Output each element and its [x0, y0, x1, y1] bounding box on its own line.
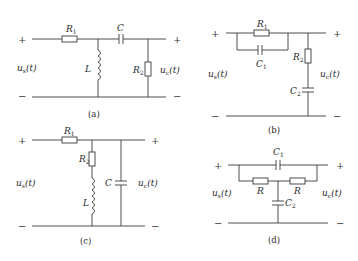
input-minus-terminal: −: [214, 218, 222, 229]
label-c1: C1: [256, 59, 267, 70]
resistor-r2: [145, 62, 151, 76]
output-voltage-label: uc(t): [322, 188, 342, 199]
caption-d: (d): [268, 235, 280, 245]
inductor-l: [98, 50, 101, 80]
input-minus-terminal: −: [211, 111, 219, 122]
input-plus-terminal: +: [214, 160, 222, 171]
resistor-r1: [254, 30, 269, 36]
label-l: L: [84, 64, 91, 74]
figure-c: + − + − R1 R2 L C us(t) uc(t) (c): [16, 126, 159, 246]
label-c2: C2: [285, 198, 296, 209]
output-plus-terminal: +: [151, 135, 159, 146]
output-minus-terminal: −: [151, 221, 159, 232]
figure-a: + − + − R1 C L R2 us(t) uc(t) (a): [17, 23, 181, 119]
label-r1: R1: [63, 126, 75, 137]
label-r2: R2: [132, 65, 144, 76]
output-voltage-label: uc(t): [320, 69, 340, 80]
label-r2: R2: [78, 154, 90, 165]
output-minus-terminal: −: [333, 111, 341, 122]
resistor-r1: [62, 36, 77, 42]
output-voltage-label: uc(t): [138, 178, 158, 189]
input-voltage-label: us(t): [17, 63, 37, 74]
label-c: C: [105, 178, 112, 188]
output-plus-terminal: +: [336, 160, 344, 171]
input-voltage-label: us(t): [208, 69, 228, 80]
resistor-r2: [89, 152, 95, 166]
label-l: L: [82, 198, 89, 208]
label-r2: R2: [292, 52, 304, 63]
resistor-r-left: [253, 178, 268, 184]
figure-d: + − + − C1 R R C2 us(t) uc(t) (d): [212, 147, 344, 245]
input-voltage-label: us(t): [16, 178, 36, 189]
input-plus-terminal: +: [18, 34, 26, 45]
label-c1: C1: [273, 147, 284, 158]
caption-a: (a): [88, 109, 100, 119]
input-minus-terminal: −: [18, 91, 26, 102]
input-voltage-label: us(t): [212, 188, 232, 199]
output-plus-terminal: +: [173, 34, 181, 45]
inductor-l: [92, 178, 95, 214]
label-r1: R1: [65, 24, 77, 35]
resistor-r2: [305, 49, 311, 63]
caption-b: (b): [268, 125, 280, 135]
label-c: C: [117, 23, 124, 33]
resistor-r-right: [290, 178, 305, 184]
input-plus-terminal: +: [18, 135, 26, 146]
output-minus-terminal: −: [173, 91, 181, 102]
figure-b: + − + − R1 C1 R2 C2 us(t) uc(t) (b): [208, 19, 341, 135]
circuit-diagrams: + − + − R1 C L R2 us(t) uc(t) (a) + −: [0, 0, 358, 261]
resistor-r1: [62, 137, 77, 143]
output-minus-terminal: −: [336, 218, 344, 229]
label-c2: C2: [290, 86, 301, 97]
label-r-right: R: [293, 186, 301, 196]
input-minus-terminal: −: [18, 221, 26, 232]
label-r-left: R: [256, 186, 264, 196]
caption-c: (c): [80, 236, 91, 246]
label-r1: R1: [256, 19, 268, 30]
output-voltage-label: uc(t): [160, 65, 180, 76]
input-plus-terminal: +: [211, 28, 219, 39]
output-plus-terminal: +: [333, 28, 341, 39]
